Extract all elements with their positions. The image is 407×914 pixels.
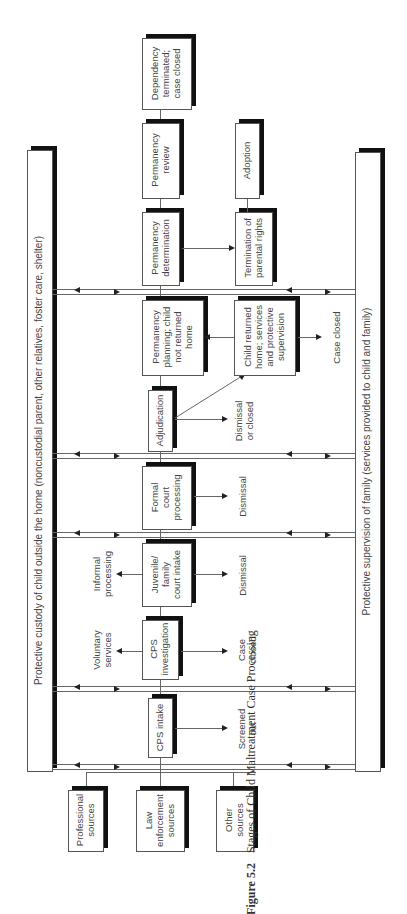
cps-intake-to-screened [175, 728, 225, 729]
cps-intake-label: CPS intake [148, 698, 171, 756]
arrow-icon [325, 686, 331, 692]
arrow-icon [114, 453, 120, 459]
arrow-icon [74, 451, 80, 457]
dismissal-juvenile-outcome: Dismissal [232, 545, 252, 605]
child-returned-home-label: Child returned home; services and protec… [234, 300, 294, 374]
arrow-icon [204, 334, 210, 340]
figure-title: Stages of Child Maltreatment Case Proces… [244, 630, 258, 853]
adjudication-to-returned-line [170, 370, 250, 422]
arrow-icon [286, 287, 292, 293]
returned-to-case-closed [298, 337, 318, 338]
cps-investigation-to-case-closed [181, 651, 225, 652]
termination-parental-rights-label: Termination of parental rights [235, 212, 271, 284]
voluntary-services-outcome: Voluntary services [88, 620, 116, 680]
arrow-icon [316, 334, 322, 340]
arrow-icon [325, 453, 331, 459]
juvenile-to-informal [120, 574, 142, 575]
arrow-icon [114, 686, 120, 692]
figure-caption: Figure 5.2Stages of Child Maltreatment C… [236, 662, 266, 882]
arrow-icon [286, 451, 292, 457]
formal-to-dismissal [194, 496, 225, 497]
juvenile-court-intake-label: Juvenile/ family court intake [142, 543, 190, 605]
arrow-icon [74, 287, 80, 293]
arrow-icon [74, 762, 80, 768]
dependency-terminated-label: Dependency terminated; case closed [142, 38, 190, 108]
protective-custody-label: Protective custody of child outside the … [27, 150, 51, 770]
protective-supervision-label: Protective supervision of family (servic… [355, 152, 379, 770]
arrow-icon [222, 648, 228, 654]
cps-investigation-to-voluntary [120, 651, 142, 652]
law-enforcement-sources-label: Law enforcement sources [136, 790, 183, 850]
arrow-icon [74, 684, 80, 690]
permanency-planning-label: Permanency planning; child not returned … [142, 300, 202, 374]
arrow-icon [222, 725, 228, 731]
law-feeder [160, 768, 161, 787]
dismissal-formal-outcome: Dismissal [232, 466, 252, 526]
connector-line-2 [52, 686, 355, 692]
returned-to-planning [208, 337, 234, 338]
arrow-icon [114, 532, 120, 538]
arrow-icon [116, 571, 122, 577]
arrow-icon [222, 571, 228, 577]
arrow-icon [114, 764, 120, 770]
arrow-icon [286, 762, 292, 768]
connector-line-3 [52, 532, 355, 538]
adjudication-label: Adjudication [148, 390, 171, 450]
juvenile-to-dismissal [194, 574, 225, 575]
permanency-review-label: Permanency review [142, 123, 178, 197]
arrow-icon [325, 289, 331, 295]
connector-line-5 [52, 289, 355, 295]
arrow-icon [114, 289, 120, 295]
connector-line-1 [52, 764, 355, 770]
case-closed-final-outcome: Case closed [326, 305, 346, 369]
arrow-icon [222, 493, 228, 499]
permanency-determination-label: Permanency determination [142, 212, 178, 284]
professional-sources-label: Professional sources [68, 790, 102, 850]
adoption-label: Adoption [235, 123, 258, 197]
arrow-icon [286, 530, 292, 536]
professional-feeder [86, 772, 87, 787]
arrow-icon [325, 764, 331, 770]
figure-number: Figure 5.2 [244, 863, 258, 914]
formal-court-processing-label: Formal court processing [142, 466, 190, 528]
informal-processing-outcome: Informal processing [88, 540, 116, 608]
determination-to-termination [182, 248, 232, 249]
cps-investigation-label: CPS investigation [142, 620, 177, 678]
arrow-icon [74, 530, 80, 536]
arrow-icon [116, 648, 122, 654]
other-feeder [233, 772, 234, 787]
arrow-icon [325, 532, 331, 538]
arrow-icon [286, 684, 292, 690]
connector-line-4 [52, 453, 355, 459]
sources-feeder-line [86, 772, 256, 773]
